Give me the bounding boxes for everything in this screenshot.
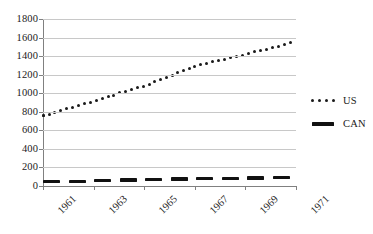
data-point-can	[247, 176, 264, 179]
gridline	[43, 56, 296, 57]
x-axis-tick-label: 1969	[258, 193, 281, 216]
y-axis-tick-label: 0	[0, 181, 38, 192]
y-axis-tick-label: 800	[0, 107, 38, 118]
data-point-can	[171, 177, 188, 180]
x-axis-tick-label: 1967	[207, 193, 230, 216]
x-axis-tick-mark	[245, 186, 246, 190]
x-axis-tick-label: 1963	[106, 193, 129, 216]
x-axis-tick-mark	[195, 186, 196, 190]
gridline	[43, 130, 296, 131]
gridline	[43, 149, 296, 150]
data-point-can	[273, 176, 290, 179]
data-point-can	[69, 180, 86, 183]
x-axis-tick-mark	[144, 186, 145, 190]
y-axis-tick-label: 1800	[0, 14, 38, 25]
solid-thick-line-marker-icon	[312, 122, 334, 126]
y-axis-tick-label: 1000	[0, 88, 38, 99]
data-point-can	[222, 177, 239, 180]
legend-label-us: US	[343, 95, 357, 106]
chart-legend: US CAN	[310, 92, 373, 138]
data-point-can	[120, 178, 137, 181]
legend-item-us[interactable]: US	[310, 92, 373, 115]
gridline	[43, 19, 296, 20]
y-axis-tick-label: 1400	[0, 51, 38, 62]
x-axis-tick-label: 1965	[156, 193, 179, 216]
x-axis-tick-label: 1961	[55, 193, 78, 216]
x-axis-tick-mark	[43, 186, 44, 190]
gridline	[43, 75, 296, 76]
dotted-line-marker-icon	[310, 99, 338, 103]
gridline	[43, 167, 296, 168]
plot-area	[43, 19, 296, 186]
gridline	[43, 93, 296, 94]
x-axis-tick-mark	[94, 186, 95, 190]
data-point-can	[94, 179, 111, 182]
gridline	[43, 112, 296, 113]
y-axis-tick-label: 200	[0, 162, 38, 173]
data-point-can	[196, 177, 213, 180]
y-axis-tick-label: 1600	[0, 33, 38, 44]
x-axis-tick-mark	[296, 186, 297, 190]
series-can	[43, 19, 296, 186]
x-axis-tick-label: 1971	[308, 193, 331, 216]
legend-label-can: CAN	[343, 118, 366, 129]
x-axis-line	[43, 186, 297, 187]
gridline	[43, 38, 296, 39]
y-axis-tick-label: 1200	[0, 70, 38, 81]
y-axis-tick-label: 400	[0, 144, 38, 155]
chart-container: 020040060080010001200140016001800 196119…	[0, 0, 373, 234]
legend-item-can[interactable]: CAN	[310, 115, 373, 138]
data-point-can	[43, 180, 60, 183]
data-point-can	[145, 178, 162, 181]
y-axis-tick-label: 600	[0, 125, 38, 136]
